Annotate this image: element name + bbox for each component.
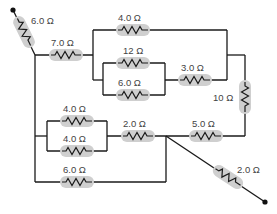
resistor-r10 bbox=[60, 145, 94, 157]
resistor-r9 bbox=[60, 115, 94, 127]
label-r8: 5.0 Ω bbox=[192, 118, 215, 129]
circuit-diagram: 6.0 Ω 7.0 Ω 4.0 Ω 12 Ω 6.0 Ω 3.0 Ω 10 Ω … bbox=[0, 0, 277, 214]
label-r1: 6.0 Ω bbox=[31, 15, 54, 26]
label-r11: 2.0 Ω bbox=[123, 118, 146, 129]
resistor-r11 bbox=[121, 130, 155, 142]
label-r2: 7.0 Ω bbox=[51, 37, 74, 48]
label-r3: 4.0 Ω bbox=[118, 12, 141, 23]
label-r7: 10 Ω bbox=[213, 92, 233, 103]
resistor-r2 bbox=[49, 49, 83, 61]
label-r4: 12 Ω bbox=[123, 45, 143, 56]
resistor-r7 bbox=[239, 80, 251, 114]
terminal-bottom-right bbox=[262, 199, 267, 204]
terminal-top-left bbox=[10, 7, 15, 12]
resistor-r12 bbox=[60, 176, 94, 188]
label-r5: 6.0 Ω bbox=[118, 77, 141, 88]
label-r12: 6.0 Ω bbox=[63, 164, 86, 175]
resistor-r5 bbox=[116, 89, 150, 101]
resistor-r3 bbox=[116, 24, 150, 36]
label-r9: 4.0 Ω bbox=[63, 103, 86, 114]
resistor-r8 bbox=[189, 130, 223, 142]
resistor-r6 bbox=[178, 74, 212, 86]
resistor-r4 bbox=[116, 57, 150, 69]
label-r10: 4.0 Ω bbox=[63, 133, 86, 144]
label-r13: 2.0 Ω bbox=[237, 164, 260, 175]
label-r6: 3.0 Ω bbox=[181, 62, 204, 73]
